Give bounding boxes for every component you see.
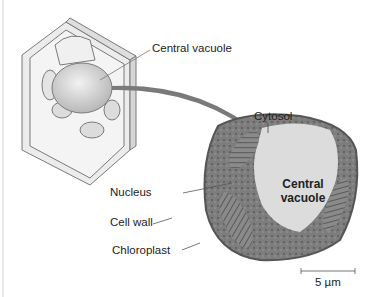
label-nucleus: Nucleus [110, 186, 152, 198]
chloroplast-leader [182, 243, 200, 250]
label-central-vacuole: Central vacuole [152, 42, 232, 54]
label-cytosol: Cytosol [254, 110, 292, 122]
label-central-vacuole-inside: Central vacuole [268, 177, 338, 205]
label-scale-bar: 5 µm [315, 276, 341, 288]
label-chloroplast: Chloroplast [112, 244, 170, 256]
cell-wall-leader [153, 218, 172, 224]
plant-cell-figure: Central vacuole Cytosol Central vacuole … [0, 0, 374, 297]
cell-sketch [22, 18, 136, 185]
scale-bar [301, 268, 355, 274]
label-cell-wall: Cell wall [110, 216, 153, 228]
